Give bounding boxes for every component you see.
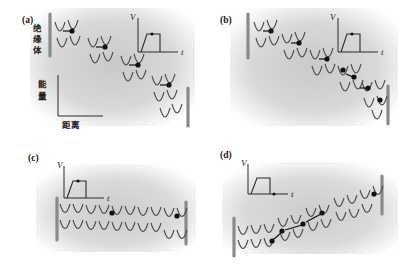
panel-b-label: (b) [220, 15, 232, 26]
svg-text:绝: 绝 [33, 23, 42, 33]
panel-a-label: (a) [22, 15, 33, 26]
svg-text:体: 体 [33, 45, 42, 55]
svg-text:缘: 缘 [33, 34, 42, 44]
svg-text:能: 能 [38, 79, 47, 89]
panel-d: (d) V t [202, 134, 404, 267]
panel-c-label: (c) [28, 153, 39, 164]
svg-text:量: 量 [38, 91, 47, 101]
panel-c-shading [36, 164, 196, 252]
physics-figure: (a) 绝 缘 体 [0, 0, 404, 267]
svg-text:距离: 距离 [62, 120, 80, 130]
panel-d-label: (d) [220, 150, 232, 161]
panel-c: (c) V t [0, 134, 202, 267]
panel-b: (b) [202, 0, 404, 134]
insulator-label-a: 绝 缘 体 [33, 23, 42, 55]
panel-a: (a) 绝 缘 体 [0, 0, 202, 134]
